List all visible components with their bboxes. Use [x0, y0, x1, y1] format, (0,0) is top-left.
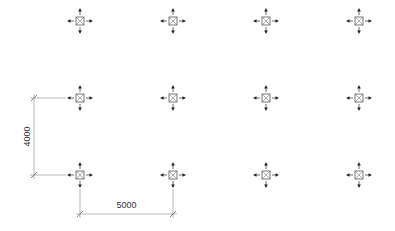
column-symbol-r2-c2 [160, 85, 186, 111]
column-symbol-r3-c2 [160, 162, 186, 188]
column-symbol-r2-c4 [346, 85, 372, 111]
column-symbol-r1-c2 [160, 8, 186, 34]
column-symbol-r3-c1 [67, 162, 93, 188]
column-symbol-r1-c1 [67, 8, 93, 34]
horizontal-dimension-label: 5000 [116, 200, 136, 210]
grid-plan-canvas: 4000 5000 [0, 0, 395, 231]
horizontal-dimension: 5000 [76, 189, 177, 218]
vertical-dimension: 4000 [22, 94, 66, 179]
column-symbol-r2-c3 [253, 85, 279, 111]
column-symbol-r1-c3 [253, 8, 279, 34]
column-symbol-r1-c4 [346, 8, 372, 34]
column-symbol-r3-c3 [253, 162, 279, 188]
vertical-dimension-label: 4000 [22, 126, 32, 146]
column-symbol-r3-c4 [346, 162, 372, 188]
column-symbol-r2-c1 [67, 85, 93, 111]
